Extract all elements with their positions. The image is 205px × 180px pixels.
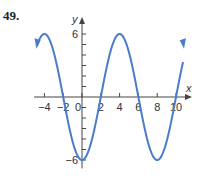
x-axis-label: x xyxy=(185,82,192,94)
x-tick-label: −2 xyxy=(57,101,70,113)
x-axis-arrow-icon xyxy=(185,94,192,100)
chart-container: 49. −4−202468106−6xy xyxy=(0,0,205,180)
plot-area: −4−202468106−6xy xyxy=(0,0,205,180)
y-axis-label: y xyxy=(71,13,79,25)
y-axis-arrow-icon xyxy=(79,17,85,24)
x-tick-label: −4 xyxy=(38,101,51,113)
y-tick-label: 6 xyxy=(72,28,78,40)
x-tick-label: 10 xyxy=(170,101,182,113)
x-tick-label: 4 xyxy=(117,101,123,113)
x-tick-label: 0 xyxy=(75,101,81,113)
y-tick-label: −6 xyxy=(65,154,78,166)
curve-arrow-right-icon xyxy=(180,38,186,49)
x-tick-label: 8 xyxy=(154,101,160,113)
